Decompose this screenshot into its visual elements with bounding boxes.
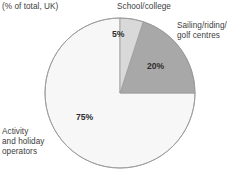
slice-label-activity-line1: Activity <box>2 127 28 136</box>
slice-label-school: School/college <box>117 2 171 12</box>
slice-value-sailing: 20% <box>147 61 164 71</box>
pie-chart: (% of total, UK) School/college Sailing/… <box>0 0 231 182</box>
slice-label-sailing: Sailing/riding/golf centres <box>177 21 231 41</box>
slice-value-activity: 75% <box>76 112 93 122</box>
slice-label-activity-line2: and holiday <box>2 137 44 146</box>
chart-caption: (% of total, UK) <box>2 2 58 12</box>
slice-label-sailing-line1: Sailing/riding/ <box>177 21 227 30</box>
slice-label-activity: Activityand holidayoperators <box>2 127 58 158</box>
slice-label-activity-line3: operators <box>2 147 37 156</box>
slice-value-school: 5% <box>112 29 124 39</box>
slice-label-sailing-line2: golf centres <box>177 31 220 40</box>
